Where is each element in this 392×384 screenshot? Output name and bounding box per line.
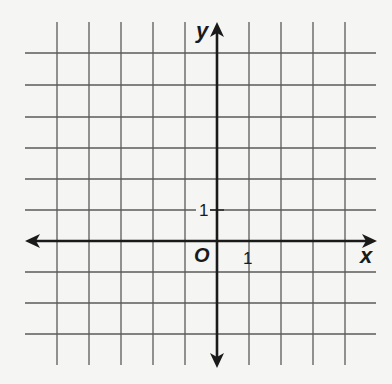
- x-axis-label: x: [360, 245, 372, 267]
- y-axis: [210, 22, 224, 368]
- origin-label: O: [194, 245, 210, 265]
- grid-lines: [25, 22, 376, 365]
- coordinate-plane: y x O 1 1: [0, 0, 392, 384]
- y-tick-label: 1: [199, 202, 208, 219]
- grid-svg: [0, 0, 392, 384]
- y-axis-label: y: [196, 20, 208, 42]
- x-tick-label: 1: [243, 250, 252, 267]
